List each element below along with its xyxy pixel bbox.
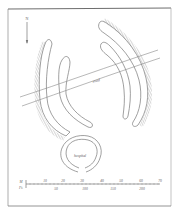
north-arrow-icon: N xyxy=(26,16,29,44)
metric-unit-label: M xyxy=(19,180,24,184)
metric-tick: 50 xyxy=(119,179,123,183)
metric-tick: 40 xyxy=(100,179,104,183)
left-outer-bank xyxy=(36,40,70,140)
left-inner-bank xyxy=(59,56,93,127)
north-label: N xyxy=(26,16,29,21)
road-label: road xyxy=(92,77,102,84)
metric-tick: 60 xyxy=(139,179,143,183)
chapel-enclosure: hospital xyxy=(61,136,101,173)
frame xyxy=(8,8,171,206)
scale-bar: M Ft. 10 20 30 40 50 60 70 50 100 150 20… xyxy=(18,179,162,191)
metric-tick: 70 xyxy=(158,179,162,183)
imperial-tick: 100 xyxy=(82,187,88,191)
metric-tick: 10 xyxy=(43,179,47,183)
imperial-unit-label: Ft. xyxy=(18,186,23,190)
metric-tick: 30 xyxy=(80,179,84,183)
right-outer-bank xyxy=(99,20,150,126)
imperial-tick: 150 xyxy=(110,187,116,191)
chapel-label: hospital xyxy=(74,154,86,158)
imperial-tick: 200 xyxy=(139,187,145,191)
metric-tick: 20 xyxy=(61,179,65,183)
site-plan: N road hospital xyxy=(0,0,180,213)
imperial-tick: 50 xyxy=(54,187,58,191)
